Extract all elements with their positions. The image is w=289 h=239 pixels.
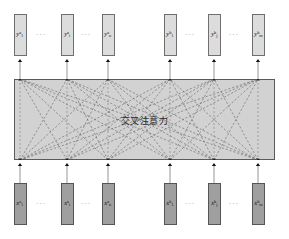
input-node-xna: xan — [102, 183, 115, 225]
node-label: yb1 — [166, 31, 173, 39]
node-label: ybm — [254, 31, 263, 39]
output-node-yjb: ybj — [208, 14, 221, 56]
input-row-ellipsis-1: ··· — [81, 201, 91, 208]
node-label: xbj — [211, 200, 217, 208]
output-node-ymb: ybm — [252, 14, 265, 56]
input-node-xmb: xbm — [252, 183, 265, 225]
input-row-ellipsis-0: ··· — [36, 201, 46, 208]
node-label: xan — [104, 200, 111, 208]
input-row-ellipsis-2: ··· — [185, 201, 195, 208]
node-label: yan — [104, 31, 111, 39]
output-node-y1a: ya1 — [14, 14, 27, 56]
output-row-ellipsis-2: ··· — [185, 32, 195, 39]
output-node-y1b: yb1 — [164, 14, 177, 56]
node-label: yai — [64, 31, 70, 39]
cross-attention-label: 交叉注意力 — [15, 113, 274, 126]
node-label: xai — [64, 200, 70, 208]
node-label: xb1 — [166, 200, 173, 208]
input-row-ellipsis-3: ··· — [229, 201, 239, 208]
input-node-x1b: xb1 — [164, 183, 177, 225]
output-node-yna: yan — [102, 14, 115, 56]
output-row-ellipsis-3: ··· — [229, 32, 239, 39]
node-label: ybj — [211, 31, 217, 39]
input-node-x1a: xa1 — [14, 183, 27, 225]
input-node-xia: xai — [61, 183, 74, 225]
output-node-yia: yai — [61, 14, 74, 56]
diagram-canvas: 交叉注意力 ya1yaiyanyb1ybjybmxa1xaixanxb1xbjx… — [0, 0, 289, 239]
node-label: xa1 — [16, 200, 23, 208]
node-label: ya1 — [16, 31, 23, 39]
output-row-ellipsis-1: ··· — [81, 32, 91, 39]
cross-attention-block: 交叉注意力 — [14, 79, 275, 160]
input-node-xjb: xbj — [208, 183, 221, 225]
output-row-ellipsis-0: ··· — [36, 32, 46, 39]
node-label: xbm — [254, 200, 263, 208]
